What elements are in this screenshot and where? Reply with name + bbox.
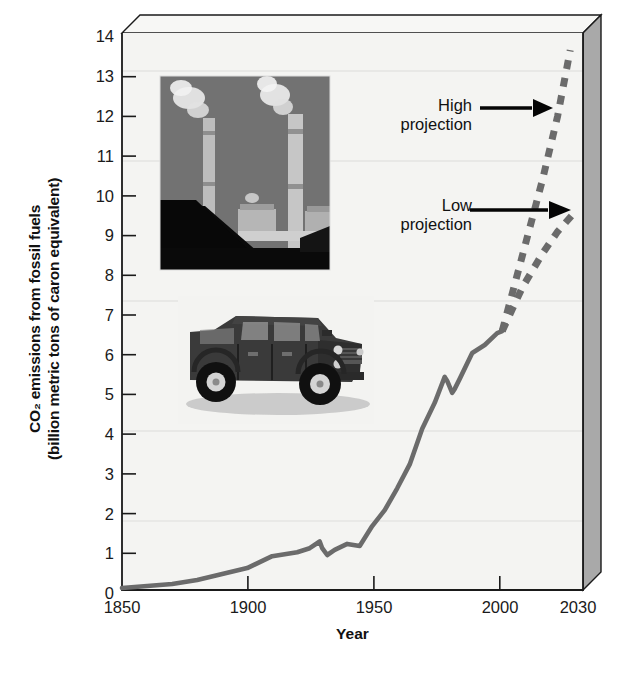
y-tick-5: 5 <box>80 386 114 403</box>
x-tick-2030: 2030 <box>543 598 613 617</box>
y-tick-1: 1 <box>80 545 114 562</box>
y-tick-10: 10 <box>80 188 114 205</box>
hummer-photo <box>178 296 374 424</box>
x-tick-2000: 2000 <box>465 598 535 617</box>
y-tick-9: 9 <box>80 227 114 244</box>
y-axis-tick-labels: 14 13 12 11 10 9 8 7 6 5 4 3 2 1 0 <box>78 0 114 677</box>
y-tick-12: 12 <box>80 108 114 125</box>
low-projection-annotation: Low projection <box>352 196 472 235</box>
low-projection-label-line1: Low <box>442 196 472 214</box>
x-tick-1950: 1950 <box>339 598 409 617</box>
box-right-face <box>583 15 601 590</box>
x-tick-1850: 1850 <box>87 598 157 617</box>
y-tick-2: 2 <box>80 506 114 523</box>
chart-figure: 14 13 12 11 10 9 8 7 6 5 4 3 2 1 0 1850 … <box>0 0 617 677</box>
box-top-face <box>122 15 601 33</box>
y-axis-title: CO₂ emissions from fossil fuels (billion… <box>26 59 64 579</box>
y-tick-8: 8 <box>80 267 114 284</box>
y-tick-3: 3 <box>80 466 114 483</box>
y-tick-6: 6 <box>80 347 114 364</box>
y-axis-title-line2: (billion metric tons of caron equivalent… <box>45 59 64 579</box>
y-tick-4: 4 <box>80 426 114 443</box>
y-tick-13: 13 <box>80 68 114 85</box>
x-tick-1900: 1900 <box>213 598 283 617</box>
high-projection-label-line1: High <box>438 96 472 114</box>
y-tick-7: 7 <box>80 307 114 324</box>
high-projection-annotation: High projection <box>352 96 472 135</box>
y-axis-title-line1: CO₂ emissions from fossil fuels <box>26 205 43 433</box>
high-projection-label-line2: projection <box>400 115 472 133</box>
smokestacks-photo <box>160 76 338 270</box>
x-axis-title: Year <box>122 625 583 643</box>
y-tick-14: 14 <box>80 28 114 45</box>
y-tick-11: 11 <box>80 148 114 165</box>
low-projection-label-line2: projection <box>400 215 472 233</box>
